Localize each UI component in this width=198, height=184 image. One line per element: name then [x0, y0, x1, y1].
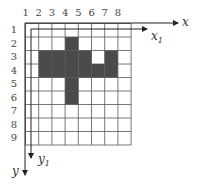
filled-cell — [92, 64, 105, 78]
filled-cell — [52, 51, 65, 65]
x1-axis-label-text: x — [151, 29, 158, 43]
filled-cell — [39, 64, 52, 78]
row-label: 6 — [8, 93, 20, 103]
column-label: 2 — [33, 8, 45, 18]
filled-cell — [65, 51, 78, 65]
x-axis-label: x — [182, 15, 189, 29]
y1-axis-label-text: y — [38, 152, 45, 166]
y-axis-label: y — [12, 164, 19, 178]
filled-cell — [105, 51, 118, 65]
filled-cell — [105, 64, 118, 78]
column-label: 4 — [59, 8, 71, 18]
filled-cell — [78, 64, 91, 78]
row-label: 8 — [8, 120, 20, 130]
y-axis-label-text: y — [12, 164, 19, 178]
filled-cell — [65, 64, 78, 78]
y1-subscript: 1 — [45, 159, 50, 168]
column-label: 5 — [72, 8, 84, 18]
filled-cell — [65, 37, 78, 51]
filled-cell — [52, 64, 65, 78]
column-label: 1 — [20, 8, 32, 18]
row-label: 9 — [8, 133, 20, 143]
row-label: 5 — [8, 79, 20, 89]
x1-axis-label: x1 — [151, 29, 163, 43]
x-axis-label-text: x — [182, 15, 189, 29]
row-label: 3 — [8, 52, 20, 62]
filled-cell — [65, 78, 78, 92]
grid-lines — [26, 24, 132, 146]
y1-axis-label: y1 — [38, 152, 50, 166]
row-label: 1 — [8, 25, 20, 35]
filled-cell — [78, 51, 91, 65]
grid-canvas — [0, 0, 198, 184]
column-label: 3 — [46, 8, 58, 18]
column-label: 7 — [99, 8, 111, 18]
row-label: 7 — [8, 106, 20, 116]
filled-cell — [65, 91, 78, 105]
filled-cell — [39, 51, 52, 65]
pixel-grid-diagram: 12345678 123456789 x x1 y1 y — [0, 0, 198, 184]
column-label: 8 — [112, 8, 124, 18]
row-label: 4 — [8, 66, 20, 76]
row-label: 2 — [8, 39, 20, 49]
x1-subscript: 1 — [158, 36, 163, 45]
column-label: 6 — [86, 8, 98, 18]
